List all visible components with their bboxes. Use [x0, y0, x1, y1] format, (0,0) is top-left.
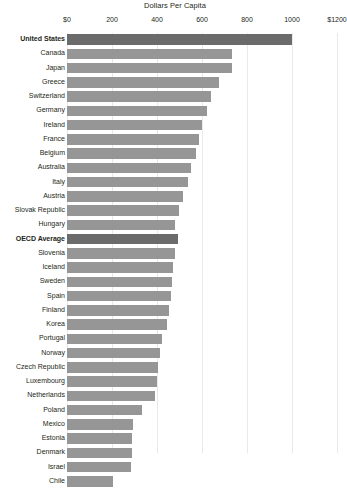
bar-row: Australia: [0, 161, 347, 175]
bar-row: Mexico: [0, 418, 347, 432]
bar: [67, 34, 292, 45]
bar: [67, 63, 232, 74]
bar-row: Poland: [0, 404, 347, 418]
bar: [67, 191, 183, 202]
category-label: Belgium: [40, 149, 65, 157]
category-label: Slovenia: [38, 249, 65, 257]
category-label: OECD Average: [16, 235, 65, 243]
bar: [67, 134, 199, 145]
bar-row: United States: [0, 33, 347, 47]
bar-row: Chile: [0, 475, 347, 489]
category-label: Mexico: [43, 420, 65, 428]
bar: [67, 419, 133, 430]
bar: [67, 106, 207, 117]
bar: [67, 262, 173, 273]
bar: [67, 448, 132, 459]
category-label: Israel: [48, 463, 65, 471]
bar-row: Ireland: [0, 119, 347, 133]
bar: [67, 163, 191, 174]
category-label: Luxembourg: [26, 377, 65, 385]
bar-row: Japan: [0, 62, 347, 76]
category-label: Estonia: [42, 434, 65, 442]
category-label: France: [43, 135, 65, 143]
category-label: Norway: [41, 349, 65, 357]
bar-row: Finland: [0, 304, 347, 318]
bar: [67, 49, 232, 60]
bar-row: Israel: [0, 461, 347, 475]
bar-row: Greece: [0, 76, 347, 90]
category-label: Sweden: [40, 277, 65, 285]
bar: [67, 391, 155, 402]
category-label: Hungary: [39, 220, 65, 228]
bar: [67, 405, 142, 416]
plot-area: United StatesCanadaJapanGreeceSwitzerlan…: [0, 33, 347, 453]
bar: [67, 220, 175, 231]
category-label: Ireland: [44, 121, 65, 129]
bar: [67, 120, 202, 131]
category-label: Portugal: [39, 334, 65, 342]
bar-row: Italy: [0, 176, 347, 190]
bar: [67, 334, 162, 345]
bar: [67, 433, 132, 444]
bar-row: Luxembourg: [0, 375, 347, 389]
bar: [67, 91, 211, 102]
bar-row: Czech Republic: [0, 361, 347, 375]
category-label: Switzerland: [29, 92, 65, 100]
category-label: Spain: [47, 292, 65, 300]
bar-row: Korea: [0, 318, 347, 332]
bar: [67, 291, 171, 302]
category-label: Netherlands: [27, 391, 65, 399]
category-label: Slovak Republic: [15, 206, 65, 214]
bar: [67, 248, 175, 259]
bar-row: Belgium: [0, 147, 347, 161]
x-axis-tick-label: 400: [151, 16, 163, 23]
bar: [67, 205, 179, 216]
bar: [67, 348, 160, 359]
bar-row: Canada: [0, 47, 347, 61]
x-axis-tick-label: 200: [106, 16, 118, 23]
bar-row: Spain: [0, 290, 347, 304]
category-label: Finland: [42, 306, 65, 314]
bar: [67, 77, 219, 88]
x-axis-tick-label: 1000: [284, 16, 300, 23]
bar-row: Norway: [0, 347, 347, 361]
x-axis-tick-label: 800: [241, 16, 253, 23]
bar-row: Austria: [0, 190, 347, 204]
category-label: Chile: [49, 477, 65, 485]
x-axis: $02004006008001000$1200: [0, 16, 347, 28]
bar-row: Switzerland: [0, 90, 347, 104]
bar: [67, 462, 131, 473]
bar: [67, 319, 167, 330]
bar-rows: United StatesCanadaJapanGreeceSwitzerlan…: [0, 33, 347, 489]
category-label: Austria: [43, 192, 65, 200]
bar: [67, 376, 157, 387]
bar: [67, 177, 188, 188]
bar-row: Slovak Republic: [0, 204, 347, 218]
bar-row: Netherlands: [0, 389, 347, 403]
bar-row: Denmark: [0, 446, 347, 460]
bar: [67, 148, 196, 159]
category-label: United States: [20, 35, 65, 43]
bar: [67, 305, 169, 316]
bar-row: Germany: [0, 104, 347, 118]
category-label: Poland: [43, 406, 65, 414]
bar-row: Sweden: [0, 275, 347, 289]
x-axis-tick-label: $0: [63, 16, 71, 23]
bar-row: Iceland: [0, 261, 347, 275]
category-label: Germany: [36, 106, 65, 114]
category-label: Italy: [52, 178, 65, 186]
bar-row: OECD Average: [0, 233, 347, 247]
x-axis-tick-label: $1200: [327, 16, 346, 23]
bar-row: Portugal: [0, 332, 347, 346]
category-label: Japan: [46, 64, 65, 72]
category-label: Denmark: [37, 448, 65, 456]
bar: [67, 362, 158, 373]
category-label: Greece: [42, 78, 65, 86]
bar-row: Hungary: [0, 218, 347, 232]
chart-title: Dollars Per Capita: [67, 1, 283, 10]
category-label: Canada: [40, 49, 65, 57]
bar-row: France: [0, 133, 347, 147]
category-label: Czech Republic: [16, 363, 65, 371]
bar-row: Slovenia: [0, 247, 347, 261]
